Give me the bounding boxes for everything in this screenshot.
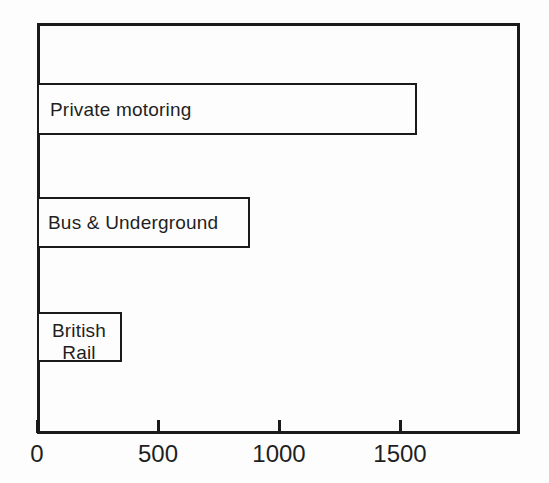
x-tick-label-500: 500 <box>138 440 178 468</box>
x-tick-0 <box>36 420 39 433</box>
x-tick-label-0: 0 <box>30 440 43 468</box>
bar-label-british-rail: British Rail <box>47 320 111 364</box>
x-tick-1000 <box>278 420 281 433</box>
x-tick-label-1000: 1000 <box>252 440 305 468</box>
bar-label-private-motoring: Private motoring <box>50 98 192 121</box>
x-tick-label-1500: 1500 <box>373 440 426 468</box>
bar-chart: Private motoring Bus & Underground Briti… <box>0 0 549 483</box>
x-tick-500 <box>157 420 160 433</box>
bar-label-bus-and-underground: Bus & Underground <box>48 211 218 234</box>
x-tick-1500 <box>399 420 402 433</box>
